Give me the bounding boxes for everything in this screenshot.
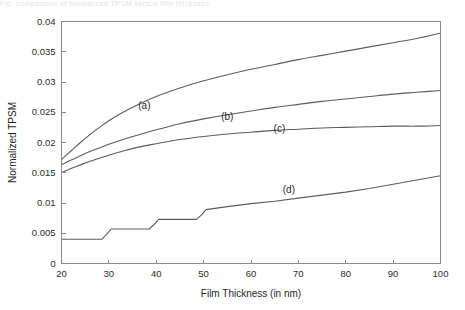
y-tick-label: 0.005	[32, 227, 56, 238]
curve-annotation-labels: (a)(b)(c)(d)	[138, 100, 295, 195]
y-tick-label: 0	[50, 258, 55, 269]
x-tick-label: 80	[340, 268, 351, 279]
x-tick-label: 70	[293, 268, 304, 279]
x-tick-label: 20	[56, 268, 67, 279]
curve-label-c: (c)	[274, 123, 286, 134]
chart-figure: Fig. comparison of normalized TPSM versu…	[0, 0, 465, 310]
x-tick-label: 50	[198, 268, 209, 279]
data-curve-d	[62, 176, 441, 240]
y-axis-tick-labels: 00.0050.010.0150.020.0250.030.0350.04	[32, 16, 56, 269]
data-curve-c	[62, 126, 441, 173]
x-axis-tick-labels: 2030405060708090100	[56, 268, 448, 279]
y-tick-label: 0.02	[37, 137, 56, 148]
data-curves-layer	[62, 33, 441, 239]
y-tick-label: 0.04	[37, 16, 56, 27]
line-chart-canvas: 00.0050.010.0150.020.0250.030.0350.04 20…	[0, 0, 465, 310]
curve-label-b: (b)	[221, 111, 233, 122]
x-tick-label: 60	[246, 268, 257, 279]
y-tick-label: 0.01	[37, 197, 56, 208]
x-tick-label: 100	[433, 268, 449, 279]
y-tick-label: 0.025	[32, 106, 56, 117]
axis-ticks-layer	[62, 22, 441, 264]
x-tick-label: 30	[104, 268, 115, 279]
curve-label-a: (a)	[138, 100, 150, 111]
y-tick-label: 0.03	[37, 76, 56, 87]
curve-label-d: (d)	[283, 184, 295, 195]
y-axis-title: Normalized TPSM	[7, 102, 18, 183]
x-tick-label: 40	[151, 268, 162, 279]
x-tick-label: 90	[388, 268, 399, 279]
plot-frame-border	[62, 22, 441, 264]
x-axis-title: Film Thickness (in nm)	[201, 288, 301, 299]
data-curve-b	[62, 90, 441, 164]
y-tick-label: 0.015	[32, 167, 56, 178]
y-tick-label: 0.035	[32, 46, 56, 57]
